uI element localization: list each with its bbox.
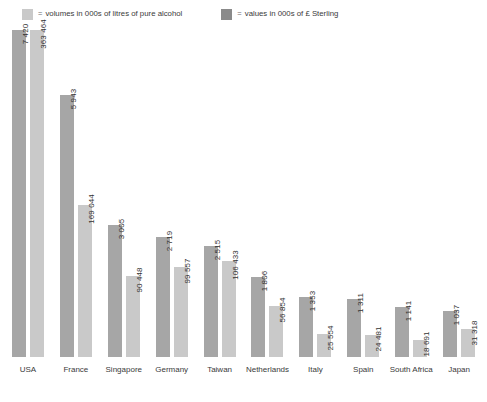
chart-legend: = volumes in 000s of litres of pure alco…: [0, 0, 487, 28]
bar-group: 7 420363 464: [4, 28, 52, 357]
bar-value-italy: 25 554: [317, 334, 331, 357]
legend-swatch-values-icon: [221, 9, 232, 20]
bar-value-label: 90 448: [133, 267, 147, 292]
bar-volume-south-africa: 1 141: [395, 307, 409, 357]
bar-chart-plot: 7 420363 4645 943169 0443 00590 4482 719…: [0, 28, 487, 402]
bar-value-france: 169 044: [78, 205, 92, 357]
category-label-usa: USA: [4, 357, 52, 374]
legend-equals-sign: =: [38, 10, 42, 18]
bar-value-taiwan: 106 433: [222, 261, 236, 357]
bar-value-label: 18 691: [420, 332, 434, 357]
legend-swatch-volumes-icon: [22, 9, 33, 20]
category-label-italy: Italy: [291, 357, 339, 374]
bar-volume-france: 5 943: [60, 95, 74, 357]
legend-entry-values: = values in 000s of £ Sterling: [221, 7, 338, 21]
bar-group: 1 14118 691: [387, 28, 435, 357]
bar-group: 3 00590 448: [100, 28, 148, 357]
legend-equals-sign: =: [237, 10, 241, 18]
bar-value-label: 3 005: [115, 218, 129, 239]
bar-value-label: 56 854: [276, 297, 290, 322]
bar-value-label: 2 515: [211, 240, 225, 261]
category-axis: USAFranceSingaporeGermanyTaiwanNetherlan…: [4, 357, 483, 387]
bar-value-label: 106 433: [229, 250, 243, 280]
bar-group: 1 80656 854: [244, 28, 292, 357]
bar-group: 1 31124 481: [339, 28, 387, 357]
bar-volume-netherlands: 1 806: [251, 277, 265, 357]
bar-value-label: 1 353: [306, 291, 320, 312]
bar-volume-usa: 7 420: [12, 30, 26, 357]
category-label-spain: Spain: [339, 357, 387, 374]
category-label-singapore: Singapore: [100, 357, 148, 374]
bar-group: 2 71999 557: [148, 28, 196, 357]
bar-volume-germany: 2 719: [156, 237, 170, 357]
bar-value-label: 1 806: [258, 271, 272, 292]
category-label-netherlands: Netherlands: [244, 357, 292, 374]
bar-value-label: 169 044: [85, 194, 99, 224]
bar-volume-singapore: 3 005: [108, 225, 122, 357]
bar-value-label: 1 037: [450, 305, 464, 326]
bar-value-label: 2 719: [163, 231, 177, 252]
bar-value-japan: 31 318: [461, 329, 475, 357]
category-label-taiwan: Taiwan: [196, 357, 244, 374]
bar-volume-japan: 1 037: [443, 311, 457, 357]
bar-value-netherlands: 56 854: [269, 306, 283, 357]
bar-value-label: 1 141: [402, 300, 416, 321]
bar-value-label: 31 318: [468, 320, 482, 345]
bar-value-usa: 363 464: [30, 30, 44, 357]
legend-label-values: values in 000s of £ Sterling: [245, 10, 339, 18]
bar-group: 2 515106 433: [196, 28, 244, 357]
bar-value-label: 25 554: [324, 325, 338, 350]
category-label-south-africa: South Africa: [387, 357, 435, 374]
bar-group: 5 943169 044: [52, 28, 100, 357]
category-label-japan: Japan: [435, 357, 483, 374]
bar-value-label: 1 311: [354, 293, 368, 313]
bar-value-germany: 99 557: [174, 267, 188, 357]
bar-volume-italy: 1 353: [299, 297, 313, 357]
bar-group: 1 03731 318: [435, 28, 483, 357]
bar-value-spain: 24 481: [365, 335, 379, 357]
bar-volume-spain: 1 311: [347, 299, 361, 357]
legend-label-volumes: volumes in 000s of litres of pure alcoho…: [45, 10, 182, 18]
bar-volume-taiwan: 2 515: [204, 246, 218, 357]
bar-value-label: 24 481: [372, 326, 386, 351]
category-label-france: France: [52, 357, 100, 374]
bar-value-label: 5 943: [67, 89, 81, 110]
bar-value-south-africa: 18 691: [413, 340, 427, 357]
bar-group: 1 35325 554: [291, 28, 339, 357]
category-label-germany: Germany: [148, 357, 196, 374]
bars-area: 7 420363 4645 943169 0443 00590 4482 719…: [4, 28, 483, 357]
bar-value-singapore: 90 448: [126, 276, 140, 357]
bar-value-label: 363 464: [37, 19, 51, 49]
bar-value-label: 99 557: [181, 259, 195, 284]
